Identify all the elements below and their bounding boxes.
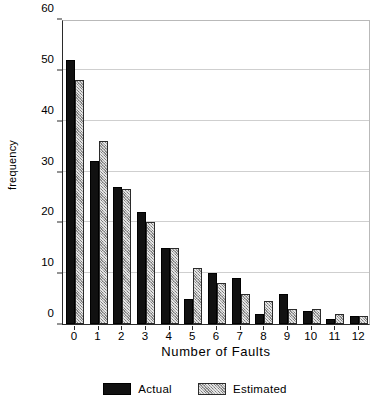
bar-actual-0 — [66, 60, 75, 324]
x-axis-tick-label: 0 — [71, 330, 77, 342]
y-axis-tick-label: 20 — [41, 205, 54, 217]
bar-group — [276, 21, 300, 324]
bar-actual-12 — [350, 316, 359, 324]
y-axis-tick-label: 60 — [41, 2, 54, 14]
bar-actual-4 — [161, 248, 170, 324]
y-axis-tick-label: 50 — [41, 53, 54, 65]
x-axis-tick-label: 10 — [304, 330, 317, 342]
bar-actual-7 — [232, 278, 241, 324]
legend-entry: Estimated — [198, 383, 287, 395]
x-axis-tick-label: 3 — [142, 330, 148, 342]
x-axis-title-label: Number of Faults — [161, 344, 270, 359]
bar-actual-2 — [113, 187, 122, 324]
bar-group — [300, 21, 324, 324]
bar-estimated-11 — [335, 314, 344, 324]
bar-group — [324, 21, 348, 324]
x-axis-tick-list: 0123456789101112 — [62, 326, 370, 346]
bar-estimated-3 — [146, 222, 155, 324]
bar-estimated-6 — [217, 283, 226, 324]
bar-chart-figure: frequency 0102030405060 0123456789101112… — [0, 0, 390, 418]
bar-actual-9 — [279, 294, 288, 325]
x-axis-tick-label: 4 — [165, 330, 171, 342]
x-axis-tick-label: 6 — [213, 330, 219, 342]
bar-estimated-9 — [288, 309, 297, 324]
bars-layer — [63, 21, 369, 324]
bar-group — [181, 21, 205, 324]
bar-estimated-0 — [75, 80, 84, 324]
bar-group — [63, 21, 87, 324]
y-axis-tick-label: 30 — [41, 155, 54, 167]
x-axis-tick-label: 7 — [236, 330, 242, 342]
y-axis-tick-list: 0102030405060 — [0, 20, 62, 325]
bar-estimated-10 — [312, 309, 321, 324]
bar-estimated-4 — [170, 248, 179, 324]
bar-estimated-2 — [122, 189, 131, 324]
bar-group — [347, 21, 371, 324]
bar-estimated-12 — [359, 316, 368, 324]
bar-actual-1 — [90, 161, 99, 324]
y-axis-tick-label: 40 — [41, 104, 54, 116]
x-axis-tick-label: 11 — [328, 330, 340, 342]
y-axis-tick-label: 10 — [41, 256, 54, 268]
x-axis-title: Number of Faults — [62, 344, 370, 359]
legend-label: Estimated — [233, 383, 287, 395]
x-axis-tick-label: 12 — [352, 330, 365, 342]
x-axis-tick-label: 5 — [189, 330, 195, 342]
x-axis-tick-label: 8 — [260, 330, 266, 342]
plot-area — [62, 20, 370, 325]
bar-estimated-1 — [99, 141, 108, 324]
hatched-gray-swatch — [198, 383, 226, 395]
bar-group — [110, 21, 134, 324]
bar-actual-8 — [255, 314, 264, 324]
x-axis-tick-label: 2 — [118, 330, 124, 342]
bar-group — [87, 21, 111, 324]
solid-black-swatch — [103, 383, 131, 395]
bar-estimated-8 — [264, 301, 273, 324]
bar-group — [253, 21, 277, 324]
bar-estimated-7 — [241, 294, 250, 325]
bar-group — [229, 21, 253, 324]
chart-legend: ActualEstimated — [0, 383, 390, 395]
legend-label: Actual — [138, 383, 172, 395]
x-axis-tick-label: 1 — [94, 330, 100, 342]
bar-actual-6 — [208, 273, 217, 324]
y-axis-tick-label: 0 — [48, 307, 54, 319]
bar-group — [134, 21, 158, 324]
bar-actual-3 — [137, 212, 146, 324]
legend-entry: Actual — [103, 383, 172, 395]
bar-actual-5 — [184, 299, 193, 324]
bar-actual-10 — [303, 311, 312, 324]
bar-group — [158, 21, 182, 324]
bar-actual-11 — [326, 319, 335, 324]
bar-estimated-5 — [193, 268, 202, 324]
bar-group — [205, 21, 229, 324]
x-axis-tick-label: 9 — [284, 330, 290, 342]
